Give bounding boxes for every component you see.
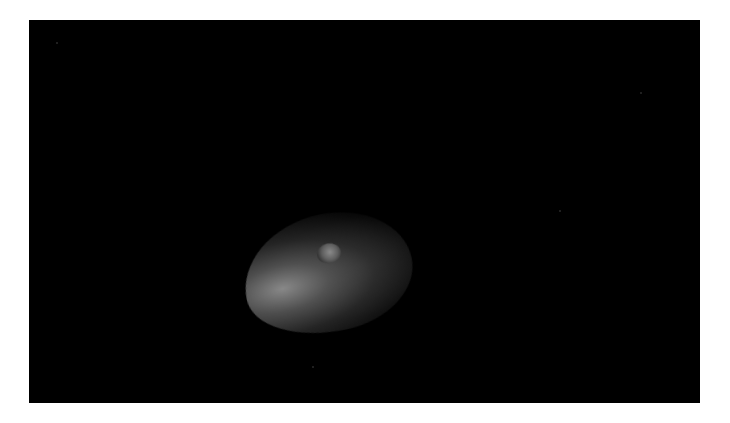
- crater: [315, 241, 343, 266]
- star: [312, 366, 314, 368]
- star: [56, 42, 58, 44]
- space-photo: asteroid: [29, 20, 700, 403]
- star: [640, 92, 642, 94]
- star: [559, 210, 561, 212]
- asteroid: [233, 198, 424, 349]
